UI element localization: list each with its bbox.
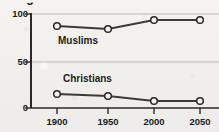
series-label-christians: Christians	[63, 74, 112, 84]
data-point-muslims-2000	[151, 17, 158, 24]
series-christians	[54, 91, 204, 105]
series-muslims	[54, 17, 204, 33]
x-tick-label-2000: 2000	[143, 117, 164, 127]
data-point-muslims-1900	[54, 23, 61, 30]
x-tick-label-1950: 1950	[97, 117, 118, 127]
series-muslims-line	[57, 20, 200, 29]
data-point-christians-1900	[54, 91, 61, 98]
data-point-christians-1950	[105, 93, 112, 100]
data-point-christians-2000	[151, 98, 158, 105]
x-tick-label-1900: 1900	[46, 117, 67, 127]
plot-area	[0, 0, 219, 132]
data-point-muslims-1950	[105, 26, 112, 33]
series-christians-line	[57, 94, 200, 101]
line-chart: Religion in Kosovo 100 50 0	[0, 0, 219, 132]
x-tick-label-2050: 2050	[189, 117, 210, 127]
series-label-muslims: Muslims	[58, 36, 98, 46]
data-point-christians-2050	[197, 98, 204, 105]
data-point-muslims-2050	[197, 17, 204, 24]
